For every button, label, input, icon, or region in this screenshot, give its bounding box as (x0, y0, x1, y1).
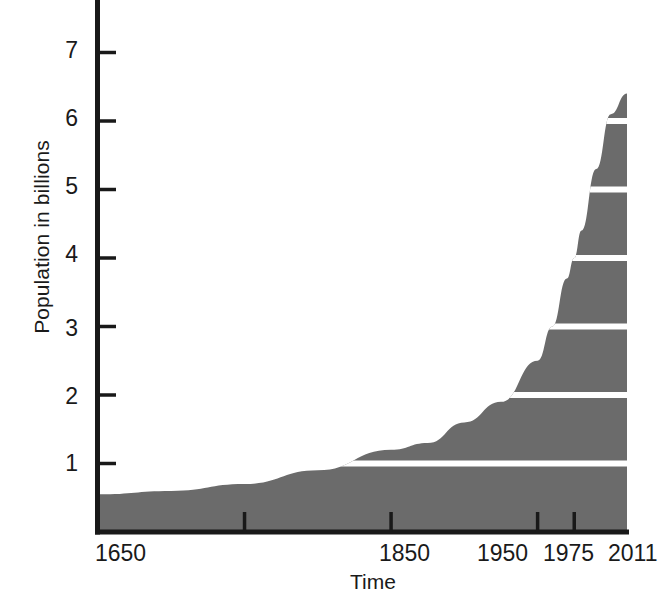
population-growth-chart: Population in billions 7 6 5 4 3 2 1 165… (0, 0, 663, 605)
plot-area (0, 0, 663, 605)
